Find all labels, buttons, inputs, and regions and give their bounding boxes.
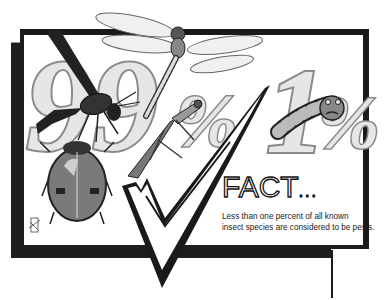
fact-illustration: 99 % 1 % (0, 0, 384, 300)
illustration-canvas: 99 % 1 % (0, 0, 384, 300)
fact-block: FACT... Less than one percent of all kno… (222, 172, 382, 233)
fact-caption-line-1: Less than one percent of all known (222, 211, 382, 222)
fact-heading: FACT... (222, 172, 382, 207)
fact-caption: Less than one percent of all known insec… (222, 211, 382, 233)
svg-text:%: % (318, 82, 380, 164)
fact-caption-line-2: insect species are considered to be pest… (222, 222, 382, 233)
fact-title: FACT (222, 170, 299, 203)
fact-ellipsis: ... (299, 183, 318, 200)
